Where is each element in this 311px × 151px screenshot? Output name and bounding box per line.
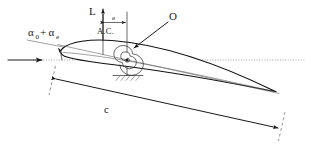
chord-label: c [104, 103, 109, 115]
alpha-zero-subscript: 0 [36, 33, 40, 41]
alpha-e-subscript: e [56, 33, 59, 41]
angle-of-attack-label: α 0 + α e [28, 26, 59, 41]
alpha-e-symbol: α [49, 26, 55, 38]
airfoil-diagram: α 0 + α e L e A.C. O c [0, 0, 311, 151]
plus-sign: + [40, 26, 46, 38]
o-leader-line [134, 22, 168, 48]
eccentricity-label: e [112, 14, 115, 22]
aerodynamic-center-label: A.C. [97, 26, 114, 36]
elastic-axis-label: O [169, 10, 177, 22]
airfoil-section [61, 40, 276, 92]
diagram-canvas: α 0 + α e L e A.C. O c [0, 0, 311, 151]
alpha-leader-line [27, 40, 66, 48]
lift-label: L [89, 5, 96, 17]
chord-dimension-line [56, 79, 278, 128]
alpha-symbol: α [28, 26, 34, 38]
